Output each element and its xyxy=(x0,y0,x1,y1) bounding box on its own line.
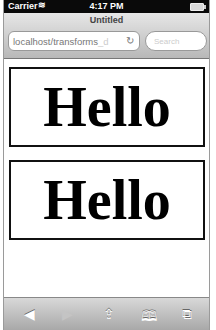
bookmarks-button[interactable]: 🕮 xyxy=(141,306,158,330)
clock: 4:17 PM xyxy=(4,1,209,11)
browser-navbar: Untitled localhost/transforms_d ↻ Search xyxy=(4,13,209,59)
browser-toolbar: ◀ ▶ ⇪ 🕮 ⧉ xyxy=(4,297,209,330)
phone-frame: Carrier ≋ 4:17 PM Untitled localhost/tra… xyxy=(3,0,210,330)
forward-button[interactable]: ▶ xyxy=(62,306,73,322)
hello-box-2: Hello xyxy=(9,160,205,240)
status-bar: Carrier ≋ 4:17 PM xyxy=(4,0,209,13)
url-text: localhost/transforms xyxy=(13,36,98,47)
battery-icon xyxy=(190,3,204,11)
hello-box-1: Hello xyxy=(9,67,205,147)
page-title: Untitled xyxy=(4,15,209,25)
page-content: Hello Hello xyxy=(4,59,209,297)
share-button[interactable]: ⇪ xyxy=(103,306,115,322)
address-bar[interactable]: localhost/transforms_d ↻ xyxy=(8,31,140,51)
reload-icon[interactable]: ↻ xyxy=(126,35,134,46)
search-input[interactable]: Search xyxy=(145,31,207,51)
url-fade: _d xyxy=(98,36,109,47)
tabs-button[interactable]: ⧉ xyxy=(182,306,192,323)
back-button[interactable]: ◀ xyxy=(24,306,35,322)
